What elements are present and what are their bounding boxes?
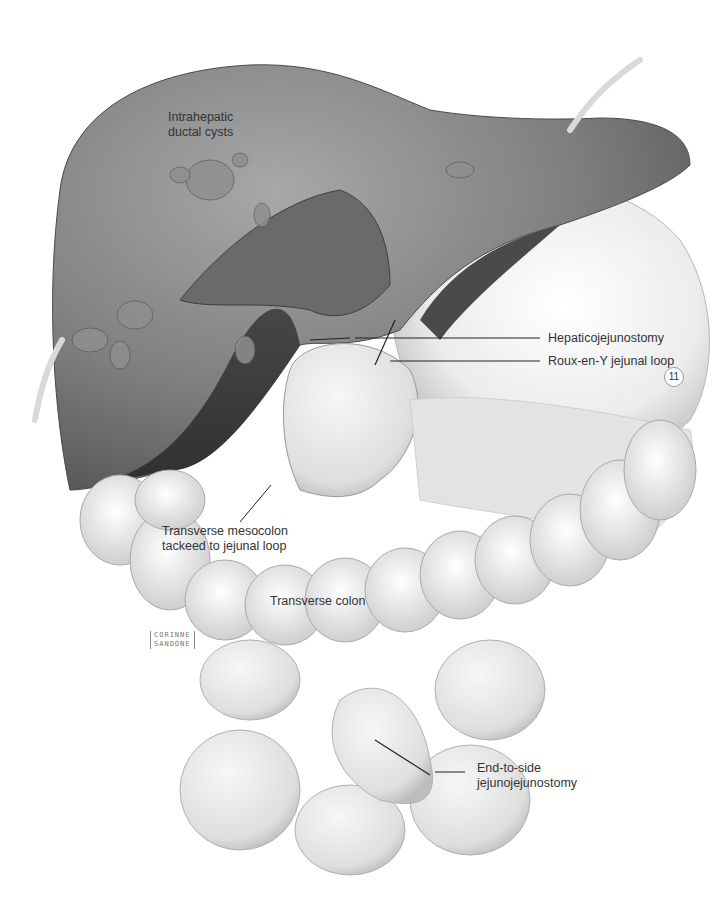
label-line: tackeed to jejunal loop: [162, 539, 288, 554]
surgical-illustration: [0, 0, 724, 920]
label-intrahepatic-cysts: Intrahepatic ductal cysts: [168, 110, 233, 140]
label-jejunojejunostomy: End-to-side jejunojejunostomy: [477, 761, 577, 791]
label-line: End-to-side: [477, 761, 577, 776]
label-line: Transverse mesocolon: [162, 524, 288, 539]
signature-line: SANDONE: [154, 640, 191, 649]
label-roux-en-y: Roux-en-Y jejunal loop: [548, 354, 674, 369]
label-hepaticojejunostomy: Hepaticojejunostomy: [548, 331, 664, 346]
signature-line: CORINNE: [154, 631, 191, 640]
figure-number-badge: 11: [664, 367, 684, 387]
label-mesocolon: Transverse mesocolon tackeed to jejunal …: [162, 524, 288, 554]
label-transverse-colon: Transverse colon: [270, 594, 365, 609]
label-line: Intrahepatic: [168, 110, 233, 125]
artist-signature: CORINNE SANDONE: [150, 631, 195, 649]
label-line: jejunojejunostomy: [477, 776, 577, 791]
label-line: ductal cysts: [168, 125, 233, 140]
small-bowel: [180, 640, 545, 875]
roux-en-y-jejunal-loop: [283, 344, 418, 497]
